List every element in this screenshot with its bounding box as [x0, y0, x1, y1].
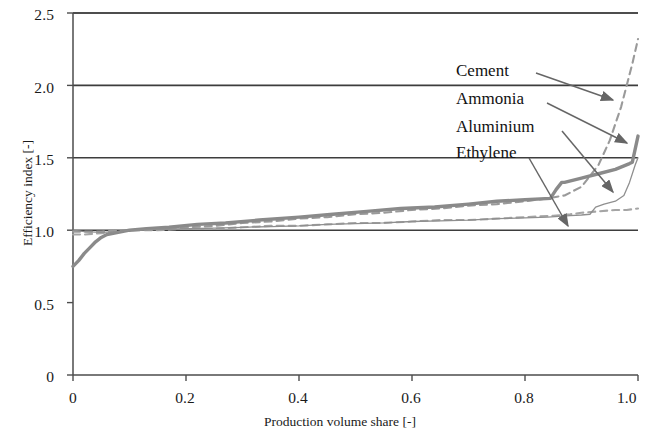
- chart-figure: 2.5 2.0 1.5 1.0 0.5 0 0 0.2 0.4 0.6 0.8 …: [0, 0, 649, 435]
- xtick-label: 0.2: [165, 390, 205, 406]
- ytick-label: 2.5: [8, 7, 54, 23]
- series-label-ethylene: Ethylene: [456, 144, 516, 161]
- ytick-label: 0: [8, 369, 54, 385]
- ytick-label: 2.0: [8, 80, 54, 96]
- ytick-label: 0.5: [8, 297, 54, 313]
- xtick-label: 0.4: [278, 390, 318, 406]
- series-line-cement: [73, 39, 638, 232]
- series-label-ammonia: Ammonia: [456, 90, 524, 107]
- series-label-aluminium: Aluminium: [456, 118, 534, 135]
- xtick-label: 1.0: [617, 390, 649, 406]
- x-axis-title: Production volume share [-]: [160, 414, 520, 430]
- chart-plot-area: [0, 0, 649, 435]
- xtick-label: 0: [53, 390, 93, 406]
- annotation-arrow-ammonia: [547, 103, 627, 143]
- xtick-label: 0.8: [504, 390, 544, 406]
- series-label-cement: Cement: [456, 62, 509, 79]
- xtick-label: 0.6: [391, 390, 431, 406]
- y-axis-title: Efficiency index [-]: [20, 113, 36, 273]
- annotation-arrow-cement: [536, 73, 613, 100]
